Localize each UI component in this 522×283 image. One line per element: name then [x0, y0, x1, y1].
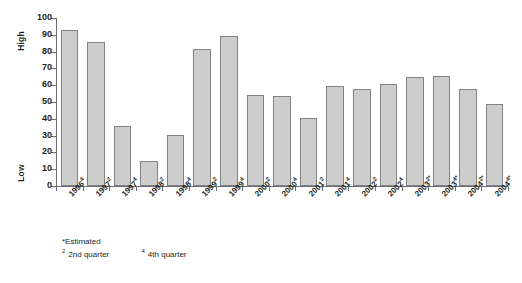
y-axis-high-label: High — [16, 26, 26, 56]
footnote-q2-text: 2nd quarter — [68, 250, 109, 259]
y-tick-label: 20 — [42, 146, 52, 156]
y-axis-line — [56, 18, 57, 186]
y-tick-label: 70 — [42, 62, 52, 72]
footnote-second-quarter: 22nd quarter — [62, 249, 109, 261]
bar — [61, 30, 79, 186]
bar — [87, 42, 105, 186]
footnote-fourth-quarter: 44th quarter — [142, 249, 187, 261]
y-tick-label: 100 — [37, 12, 52, 22]
bar — [353, 89, 371, 186]
bar — [459, 89, 477, 186]
bar — [167, 135, 185, 186]
bar — [486, 104, 504, 186]
bar — [193, 49, 211, 186]
bar — [114, 126, 132, 186]
y-tick-label: 60 — [42, 79, 52, 89]
bar — [247, 95, 265, 186]
footnote-q4-text: 4th quarter — [148, 250, 187, 259]
bar — [380, 84, 398, 186]
bar — [326, 86, 344, 186]
y-tick-label: 40 — [42, 113, 52, 123]
bar — [273, 96, 291, 186]
footnote-q2-marker: 2 — [62, 248, 65, 254]
y-tick-label: 50 — [42, 96, 52, 106]
footnotes: *Estimated 22nd quarter 44th quarter — [62, 236, 187, 261]
y-tick-label: 90 — [42, 29, 52, 39]
y-axis-low-label: Low — [16, 158, 26, 188]
y-tick-label: 80 — [42, 46, 52, 56]
bar — [433, 76, 451, 186]
y-tick-label: 10 — [42, 163, 52, 173]
footnote-q4-marker: 4 — [142, 248, 145, 254]
footnote-quarters: 22nd quarter 44th quarter — [62, 249, 187, 261]
y-tick-label: 30 — [42, 130, 52, 140]
footnote-estimated: *Estimated — [62, 236, 187, 248]
x-tick — [56, 186, 57, 191]
y-tick-label: 0 — [47, 180, 52, 190]
bar-chart: High Low 0102030405060708090100 19964199… — [0, 0, 522, 283]
bar — [300, 118, 318, 186]
bar — [406, 77, 424, 186]
plot-area: 0102030405060708090100 — [56, 18, 508, 186]
bar — [220, 36, 238, 186]
